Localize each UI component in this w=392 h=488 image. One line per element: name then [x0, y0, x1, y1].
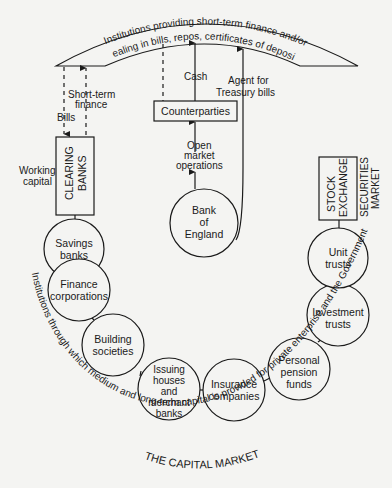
svg-text:MARKET: MARKET — [370, 167, 381, 209]
svg-text:Savings: Savings — [55, 237, 92, 249]
capital-market-title: THE CAPITAL MARKET — [143, 447, 261, 470]
svg-text:and: and — [161, 386, 178, 397]
svg-text:BANKS: BANKS — [76, 155, 88, 191]
omo-label-3: operations — [176, 160, 223, 171]
svg-text:CLEARING: CLEARING — [63, 146, 75, 200]
svg-text:banks: banks — [156, 408, 183, 419]
securities-market-label: SECURITIES MARKET — [359, 157, 381, 217]
svg-text:Issuing: Issuing — [153, 364, 185, 375]
node-issuing-houses-merchant-banks: Issuing houses and merchant banks — [138, 358, 200, 420]
bills-label: Bills — [57, 112, 75, 123]
cash-label: Cash — [184, 71, 207, 82]
svg-text:Unit: Unit — [329, 246, 348, 258]
svg-text:houses: houses — [153, 375, 185, 386]
working-capital-label-1: Working — [19, 165, 56, 176]
short-term-finance-label-2: finance — [75, 99, 108, 110]
counterparties-box: Counterparties — [154, 101, 237, 121]
svg-text:of: of — [200, 216, 209, 228]
capital-market-diagram: Institutions providing short-term financ… — [0, 0, 392, 488]
working-capital-label-2: capital — [23, 176, 52, 187]
svg-text:STOCK: STOCK — [325, 176, 337, 212]
svg-text:Finance: Finance — [60, 278, 98, 290]
agent-label-1: Agent for — [228, 75, 269, 86]
svg-text:Bank: Bank — [192, 204, 217, 216]
svg-text:corporations: corporations — [50, 290, 108, 302]
svg-text:Counterparties: Counterparties — [161, 105, 230, 117]
short-term-institutions-arc: Institutions providing short-term financ… — [0, 0, 358, 66]
stock-exchange-box: STOCK EXCHANGE — [319, 157, 357, 220]
svg-text:trusts: trusts — [325, 318, 351, 330]
svg-text:England: England — [185, 228, 224, 240]
svg-text:funds: funds — [286, 378, 312, 390]
agent-label-2: Treasury bills — [216, 87, 275, 98]
svg-text:pension: pension — [281, 366, 318, 378]
node-bank-of-england: Bank of England — [170, 189, 238, 257]
clearing-banks-box: CLEARING BANKS — [56, 137, 94, 215]
svg-text:Building: Building — [94, 333, 132, 345]
svg-text:SECURITIES: SECURITIES — [359, 157, 370, 217]
svg-text:societies: societies — [93, 345, 134, 357]
node-finance-corporations: Finance corporations — [48, 259, 110, 321]
svg-text:EXCHANGE: EXCHANGE — [337, 158, 349, 217]
node-personal-pension-funds: Personal pension funds — [268, 338, 330, 400]
